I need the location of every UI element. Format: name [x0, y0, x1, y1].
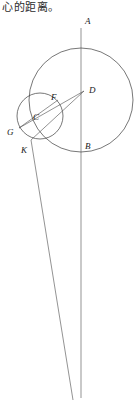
figure-page: 心的距离。 A D F C G K B — [0, 0, 140, 403]
point-label-c: C — [33, 112, 40, 122]
point-label-k: K — [20, 145, 28, 155]
point-label-a: A — [84, 16, 91, 26]
point-label-d: D — [88, 85, 96, 95]
tangent-line-from-k — [31, 140, 73, 400]
point-label-g: G — [7, 127, 14, 137]
geometry-figure: A D F C G K B — [0, 0, 140, 403]
point-label-f: F — [50, 92, 57, 102]
point-label-b: B — [85, 141, 91, 151]
